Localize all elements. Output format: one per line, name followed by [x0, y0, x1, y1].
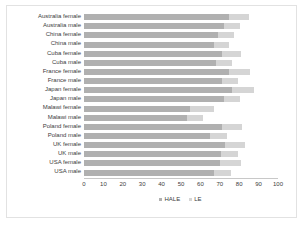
bar-segment-hale — [84, 115, 187, 121]
bar-segment-hale — [84, 60, 216, 66]
category-label: Australia male — [43, 21, 81, 30]
x-tick-label: 70 — [216, 181, 223, 187]
x-tick-label: 80 — [236, 181, 243, 187]
bar-row: Cuba female — [7, 50, 296, 59]
x-tick-label: 10 — [100, 181, 107, 187]
chart-frame: Australia femaleAustralia maleChina fema… — [6, 5, 297, 218]
category-label: Cuba female — [47, 49, 81, 58]
bar-segment-hale — [84, 160, 220, 166]
bar-row: Poland male — [7, 132, 296, 141]
x-tick-label: 90 — [255, 181, 262, 187]
bar-segment-hale — [84, 170, 214, 176]
x-tick-label: 40 — [158, 181, 165, 187]
bar-segment-hale — [84, 51, 222, 57]
x-axis-tick-labels: 0102030405060708090100 — [7, 181, 296, 193]
category-label: Japan female — [45, 85, 81, 94]
bar-segment-le — [224, 96, 240, 102]
category-label: Poland female — [43, 122, 81, 131]
x-tick-label: 60 — [197, 181, 204, 187]
bar-segment-le — [214, 42, 229, 48]
bar-segment-le — [225, 142, 245, 148]
bar-segment-hale — [84, 124, 222, 130]
category-label: UK male — [58, 149, 81, 158]
legend-label: HALE — [164, 196, 180, 203]
x-axis-line — [84, 178, 278, 179]
bar-segment-le — [218, 32, 234, 38]
bar-segment-hale — [84, 96, 224, 102]
legend-swatch-icon — [189, 198, 192, 201]
bar-segment-hale — [84, 69, 229, 75]
bar-row: USA male — [7, 168, 296, 177]
bar-segment-le — [222, 51, 241, 57]
legend-item[interactable]: HALE — [159, 196, 180, 203]
bar-segment-hale — [84, 78, 222, 84]
bar-segment-le — [190, 106, 214, 112]
category-label: Cuba male — [52, 58, 81, 67]
bar-segment-le — [210, 133, 226, 139]
bar-segment-le — [220, 160, 241, 166]
bar-segment-hale — [84, 14, 229, 20]
bar-segment-le — [222, 78, 238, 84]
bar-segment-le — [232, 87, 253, 93]
category-label: Malawi male — [48, 113, 81, 122]
bar-segment-le — [222, 124, 242, 130]
x-tick-label: 100 — [273, 181, 283, 187]
category-label: USA female — [49, 158, 81, 167]
bar-row: USA female — [7, 159, 296, 168]
bar-segment-le — [224, 23, 240, 29]
x-tick-label: 50 — [178, 181, 185, 187]
category-label: Australia female — [38, 12, 81, 21]
bar-segment-hale — [84, 87, 232, 93]
bar-segment-hale — [84, 133, 210, 139]
x-tick-label: 0 — [82, 181, 85, 187]
category-label: France female — [43, 67, 81, 76]
legend-item[interactable]: LE — [189, 196, 201, 203]
bar-rows-container: Australia femaleAustralia maleChina fema… — [7, 13, 296, 178]
category-label: Malawi female — [43, 103, 81, 112]
bar-segment-le — [187, 115, 203, 121]
x-tick-label: 20 — [119, 181, 126, 187]
category-label: USA male — [54, 167, 81, 176]
bar-segment-hale — [84, 151, 221, 157]
category-label: Japan male — [50, 94, 81, 103]
bar-segment-le — [229, 14, 249, 20]
category-label: UK female — [53, 140, 81, 149]
bar-segment-le — [229, 69, 250, 75]
chart-legend: HALELE — [7, 196, 296, 203]
bar-segment-hale — [84, 106, 190, 112]
bar-segment-le — [216, 60, 232, 66]
bar-segment-hale — [84, 23, 224, 29]
bar-row: UK female — [7, 141, 296, 150]
x-tick-label: 30 — [139, 181, 146, 187]
legend-label: LE — [194, 196, 201, 203]
legend-swatch-icon — [159, 198, 162, 201]
bar-segment-le — [214, 170, 231, 176]
category-label: France male — [48, 76, 81, 85]
bar-segment-hale — [84, 42, 214, 48]
category-label: China male — [51, 39, 81, 48]
category-label: China female — [46, 30, 81, 39]
bar-segment-hale — [84, 32, 218, 38]
bar-segment-hale — [84, 142, 225, 148]
bar-segment-le — [221, 151, 238, 157]
category-label: Poland male — [48, 131, 81, 140]
